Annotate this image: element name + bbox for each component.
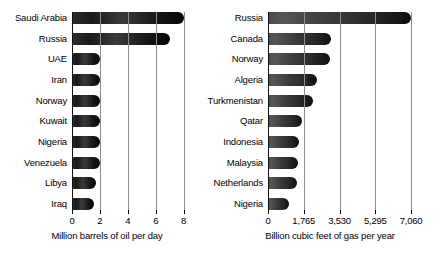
category-label: Venezuela bbox=[24, 158, 67, 168]
oil-plot-area: Saudi ArabiaRussiaUAEIranNorwayKuwaitNig… bbox=[72, 12, 192, 210]
bar-row: Algeria bbox=[268, 74, 422, 86]
gridline bbox=[100, 12, 101, 210]
bar bbox=[72, 157, 100, 169]
bar bbox=[72, 198, 94, 210]
bar bbox=[268, 95, 313, 107]
bar bbox=[72, 136, 100, 148]
gas-production-chart-panel: RussiaCanadaNorwayAlgeriaTurkmenistanQat… bbox=[214, 0, 446, 260]
gridline bbox=[184, 12, 185, 210]
dual-bar-chart-figure: Saudi ArabiaRussiaUAEIranNorwayKuwaitNig… bbox=[0, 0, 446, 260]
x-tick bbox=[411, 210, 412, 214]
bar-row: UAE bbox=[72, 53, 192, 65]
x-tick-label: 5,295 bbox=[364, 216, 387, 226]
bar-row: Indonesia bbox=[268, 136, 422, 148]
bar bbox=[268, 53, 330, 65]
x-tick bbox=[72, 210, 73, 214]
gridline bbox=[340, 12, 341, 210]
x-tick-label: 4 bbox=[125, 216, 130, 226]
x-tick bbox=[268, 210, 269, 214]
bar-row: Iran bbox=[72, 74, 192, 86]
category-label: Kuwait bbox=[39, 116, 67, 126]
category-label: Iraq bbox=[51, 199, 67, 209]
bar-row: Iraq bbox=[72, 198, 192, 210]
x-tick bbox=[184, 210, 185, 214]
category-label: Nigeria bbox=[234, 199, 263, 209]
gridline bbox=[411, 12, 412, 210]
category-label: Canada bbox=[231, 34, 263, 44]
oil-y-axis-baseline bbox=[72, 12, 73, 210]
bar bbox=[72, 74, 100, 86]
bar bbox=[72, 95, 100, 107]
category-label: Nigeria bbox=[38, 137, 67, 147]
gridline bbox=[128, 12, 129, 210]
category-label: Indonesia bbox=[223, 137, 263, 147]
bar-row: Venezuela bbox=[72, 157, 192, 169]
x-tick-label: 6 bbox=[153, 216, 158, 226]
bar-row: Norway bbox=[72, 95, 192, 107]
category-label: Russia bbox=[235, 13, 263, 23]
x-tick bbox=[304, 210, 305, 214]
bar-row: Qatar bbox=[268, 115, 422, 127]
x-tick bbox=[340, 210, 341, 214]
gridline bbox=[375, 12, 376, 210]
bar bbox=[72, 53, 100, 65]
category-label: Libya bbox=[45, 178, 67, 188]
category-label: Malaysia bbox=[227, 158, 263, 168]
gas-x-axis-title: Billion cubic feet of gas per year bbox=[214, 230, 446, 241]
bar-row: Nigeria bbox=[268, 198, 422, 210]
gas-y-axis-baseline bbox=[268, 12, 269, 210]
gridline bbox=[156, 12, 157, 210]
category-label: Saudi Arabia bbox=[15, 13, 67, 23]
bar bbox=[268, 33, 331, 45]
bar-row: Malaysia bbox=[268, 157, 422, 169]
x-tick bbox=[156, 210, 157, 214]
x-tick-label: 7,060 bbox=[400, 216, 423, 226]
bar bbox=[72, 177, 96, 189]
x-tick-label: 3,530 bbox=[328, 216, 351, 226]
x-tick-label: 8 bbox=[181, 216, 186, 226]
x-tick bbox=[100, 210, 101, 214]
category-label: Norway bbox=[36, 96, 67, 106]
gas-plot-area: RussiaCanadaNorwayAlgeriaTurkmenistanQat… bbox=[268, 12, 422, 210]
bar-row: Canada bbox=[268, 33, 422, 45]
x-tick-label: 2 bbox=[97, 216, 102, 226]
bar-row: Nigeria bbox=[72, 136, 192, 148]
oil-bar-rows: Saudi ArabiaRussiaUAEIranNorwayKuwaitNig… bbox=[72, 12, 192, 210]
bar bbox=[268, 157, 298, 169]
bar-row: Turkmenistan bbox=[268, 95, 422, 107]
bar-row: Netherlands bbox=[268, 177, 422, 189]
bar bbox=[268, 177, 297, 189]
x-tick bbox=[375, 210, 376, 214]
x-tick-label: 1,765 bbox=[292, 216, 315, 226]
bar-row: Kuwait bbox=[72, 115, 192, 127]
category-label: UAE bbox=[48, 54, 67, 64]
bar-row: Saudi Arabia bbox=[72, 12, 192, 24]
category-label: Qatar bbox=[240, 116, 263, 126]
x-tick bbox=[128, 210, 129, 214]
gas-bar-rows: RussiaCanadaNorwayAlgeriaTurkmenistanQat… bbox=[268, 12, 422, 210]
bar bbox=[268, 198, 289, 210]
bar-row: Russia bbox=[72, 33, 192, 45]
bar-row: Libya bbox=[72, 177, 192, 189]
bar-row: Norway bbox=[268, 53, 422, 65]
bar bbox=[268, 74, 317, 86]
oil-x-axis-title: Million barrels of oil per day bbox=[0, 230, 214, 241]
gridline bbox=[304, 12, 305, 210]
bar bbox=[268, 136, 299, 148]
oil-production-chart-panel: Saudi ArabiaRussiaUAEIranNorwayKuwaitNig… bbox=[0, 0, 214, 260]
category-label: Norway bbox=[232, 54, 263, 64]
bar bbox=[268, 115, 302, 127]
x-tick-label: 0 bbox=[69, 216, 74, 226]
category-label: Russia bbox=[39, 34, 67, 44]
category-label: Algeria bbox=[234, 75, 263, 85]
bar-row: Russia bbox=[268, 12, 422, 24]
x-tick-label: 0 bbox=[265, 216, 270, 226]
category-label: Turkmenistan bbox=[208, 96, 263, 106]
category-label: Iran bbox=[51, 75, 67, 85]
bar bbox=[72, 115, 100, 127]
category-label: Netherlands bbox=[213, 178, 263, 188]
